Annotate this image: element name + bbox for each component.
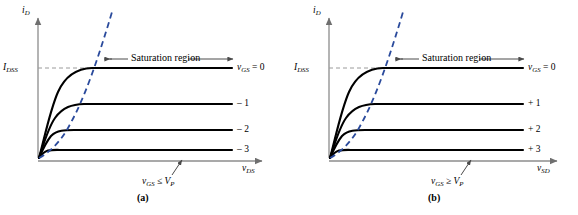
y-axis-label: iD [22, 6, 30, 16]
curve-vgs-minus2 [39, 130, 232, 158]
curve-label-minus2: – 2 [237, 125, 249, 135]
curve-label-plus3: + 3 [528, 145, 540, 155]
idss-tick-label: IDSS [3, 63, 18, 73]
note-leader-line [172, 160, 182, 175]
curve-label-plus1: + 1 [528, 99, 540, 109]
jfet-output-characteristics-figure: iD IDSS vDS Saturation region vGS = 0 – … [0, 0, 578, 215]
y-axis-label: iD [313, 6, 321, 16]
saturation-region-label: Saturation region [422, 53, 491, 63]
curve-vgs-plus2 [330, 130, 523, 158]
note-leader-line [461, 160, 471, 175]
x-axis-label: vSD [537, 164, 550, 174]
saturation-region-label: Saturation region [131, 53, 200, 63]
curve-vgs-minus3 [39, 150, 232, 158]
idss-tick-label: IDSS [294, 63, 309, 73]
x-axis-label: vDS [242, 164, 255, 174]
curve-vgs-0 [330, 68, 523, 158]
panel-b: iD IDSS vSD Saturation region vGS = 0 + … [289, 0, 578, 215]
panel-a: iD IDSS vDS Saturation region vGS = 0 – … [0, 0, 289, 215]
pinch-off-condition-note: vGS ≤ VP [142, 177, 175, 187]
curve-label-vgs-0: vGS = 0 [528, 63, 555, 73]
curve-label-vgs-0: vGS = 0 [237, 63, 264, 73]
panel-a-caption: (a) [137, 193, 149, 203]
curve-label-plus2: + 2 [528, 125, 540, 135]
curve-label-minus1: – 1 [237, 99, 249, 109]
curve-vgs-plus3 [330, 150, 523, 158]
pinch-off-condition-note: vGS ≥ VP [431, 177, 464, 187]
panel-b-caption: (b) [428, 193, 440, 203]
curve-label-minus3: – 3 [237, 145, 249, 155]
curve-vgs-0 [39, 68, 232, 158]
